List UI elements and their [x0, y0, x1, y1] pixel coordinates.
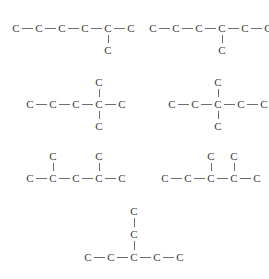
carbon-atom-label: C	[130, 228, 137, 240]
skeleton-svg: CCCCCCC	[30, 152, 134, 190]
carbon-atom-label: C	[214, 98, 221, 110]
carbon-atom-label: C	[237, 98, 244, 110]
2-4-dimethylpentane-skeleton: CCCCCCC	[30, 152, 134, 190]
3-methylhexane-skeleton: CCCCCCC	[153, 14, 269, 62]
2-methylhexane-skeleton: CCCCCCC	[16, 14, 143, 62]
carbon-atom-label: C	[95, 150, 102, 162]
carbon-atom-label: C	[26, 172, 33, 184]
carbon-atom-label: C	[35, 22, 42, 34]
skeleton-svg: CCCCCCC	[172, 78, 269, 138]
carbon-atom-label: C	[161, 172, 168, 184]
carbon-atom-label: C	[253, 172, 260, 184]
skeleton-svg: CCCCCCC	[88, 206, 192, 269]
carbon-atom-label: C	[260, 98, 267, 110]
2-3-dimethylpentane-skeleton: CCCCCCC	[165, 152, 269, 190]
carbon-atom-label: C	[149, 22, 156, 34]
carbon-atom-label: C	[230, 172, 237, 184]
carbon-atom-label: C	[118, 98, 125, 110]
isomer-diagram-canvas: CCCCCCCCCCCCCCCCCCCCCCCCCCCCCCCCCCCCCCCC…	[0, 0, 269, 279]
carbon-atom-label: C	[207, 172, 214, 184]
carbon-atom-label: C	[172, 22, 179, 34]
carbon-atom-label: C	[207, 150, 214, 162]
carbon-atom-label: C	[241, 22, 248, 34]
carbon-atom-label: C	[95, 120, 102, 132]
carbon-atom-label: C	[72, 172, 79, 184]
carbon-atom-label: C	[130, 251, 137, 263]
carbon-atom-label: C	[104, 44, 111, 56]
carbon-atom-label: C	[72, 98, 79, 110]
carbon-atom-label: C	[218, 44, 225, 56]
carbon-atom-label: C	[49, 172, 56, 184]
3-3-dimethylpentane-skeleton: CCCCCCC	[172, 78, 269, 138]
carbon-atom-label: C	[168, 98, 175, 110]
carbon-atom-label: C	[84, 251, 91, 263]
carbon-atom-label: C	[191, 98, 198, 110]
carbon-atom-label: C	[230, 150, 237, 162]
carbon-atom-label: C	[58, 22, 65, 34]
carbon-atom-label: C	[95, 98, 102, 110]
carbon-atom-label: C	[95, 76, 102, 88]
3-ethylpentane-skeleton: CCCCCCC	[88, 206, 192, 269]
carbon-atom-label: C	[95, 172, 102, 184]
skeleton-svg: CCCCCCC	[30, 78, 134, 138]
carbon-atom-label: C	[127, 22, 134, 34]
carbon-atom-label: C	[107, 251, 114, 263]
carbon-atom-label: C	[49, 150, 56, 162]
carbon-atom-label: C	[184, 172, 191, 184]
carbon-atom-label: C	[214, 120, 221, 132]
skeleton-svg: CCCCCCC	[153, 14, 269, 62]
carbon-atom-label: C	[176, 251, 183, 263]
carbon-atom-label: C	[49, 98, 56, 110]
carbon-atom-label: C	[195, 22, 202, 34]
carbon-atom-label: C	[81, 22, 88, 34]
2-2-dimethylpentane-skeleton: CCCCCCC	[30, 78, 134, 138]
carbon-atom-label: C	[153, 251, 160, 263]
carbon-atom-label: C	[130, 205, 137, 217]
carbon-atom-label: C	[264, 22, 269, 34]
skeleton-svg: CCCCCCC	[16, 14, 143, 62]
carbon-atom-label: C	[214, 76, 221, 88]
carbon-atom-label: C	[118, 172, 125, 184]
skeleton-svg: CCCCCCC	[165, 152, 269, 190]
carbon-atom-label: C	[26, 98, 33, 110]
carbon-atom-label: C	[104, 22, 111, 34]
carbon-atom-label: C	[218, 22, 225, 34]
carbon-atom-label: C	[12, 22, 19, 34]
